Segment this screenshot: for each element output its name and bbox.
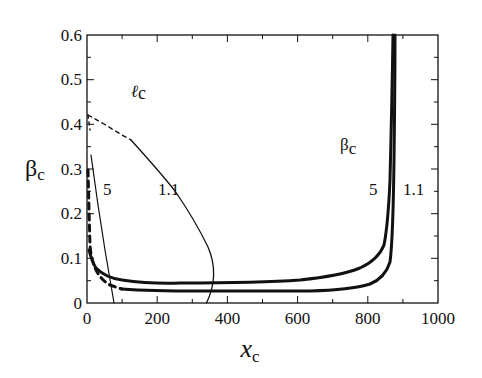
annot-lc-5: 5 [103, 180, 112, 199]
y-tick-labels: 0 0.1 0.2 0.3 0.4 0.5 0.6 [61, 26, 83, 313]
y-tick-0.1: 0.1 [61, 249, 82, 268]
curve-lc-5-dashed [88, 115, 90, 130]
x-ticks [122, 35, 403, 303]
y-tick-0: 0 [74, 294, 83, 313]
x-tick-labels: 0 200 400 600 800 1000 [83, 309, 455, 328]
curve-bc-5 [89, 35, 393, 283]
y-tick-0.2: 0.2 [61, 204, 82, 223]
chart: 0 200 400 600 800 1000 0 0.1 0.2 0.3 0.4… [0, 0, 482, 378]
curve-bc-1.1 [122, 35, 395, 291]
x-tick-800: 800 [355, 309, 381, 328]
annot-lc: ℓc [131, 82, 146, 103]
annot-bc-5: 5 [369, 180, 378, 199]
y-tick-0.4: 0.4 [61, 115, 83, 134]
x-axis-title: xc [239, 334, 260, 366]
y-tick-0.3: 0.3 [61, 160, 82, 179]
y-axis-title: βc [25, 155, 45, 184]
curve-lc-1.1-dashed [88, 115, 131, 140]
plot-frame [87, 35, 438, 303]
x-tick-0: 0 [83, 309, 92, 328]
curve-lc-1.1 [131, 140, 214, 303]
x-tick-1000: 1000 [421, 309, 455, 328]
annot-bc: βc [340, 135, 357, 158]
curves [88, 35, 395, 303]
x-tick-600: 600 [285, 309, 311, 328]
annot-bc-1.1: 1.1 [403, 180, 424, 199]
x-tick-200: 200 [144, 309, 170, 328]
y-tick-0.6: 0.6 [61, 26, 82, 45]
annot-lc-1.1: 1.1 [158, 180, 179, 199]
x-tick-400: 400 [215, 309, 241, 328]
y-tick-0.5: 0.5 [61, 70, 82, 89]
